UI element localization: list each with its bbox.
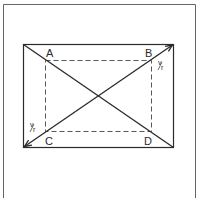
annotation-v-over-r-top-right: v r [158,59,164,71]
annotation-v-over-r-bottom-left: v r [30,121,36,133]
label-c: C [45,135,53,147]
label-b: B [145,47,152,59]
svg-text:r: r [33,126,36,133]
outer-frame [4,5,196,199]
svg-text:r: r [161,64,164,71]
label-d: D [144,135,152,147]
label-a: A [46,47,54,59]
diagram-canvas: A B C D v r v r [0,0,205,198]
